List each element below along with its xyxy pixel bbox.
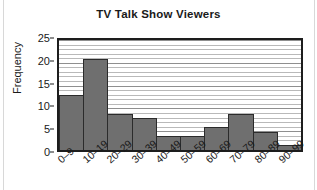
y-axis-tick-mark xyxy=(50,152,54,153)
x-axis-tick-group: 0–910–1920–2930–3940–4950–5960–6970–7980… xyxy=(57,152,303,190)
page-edge-line-right xyxy=(314,0,315,190)
chart-figure: TV Talk Show Viewers Frequency 051015202… xyxy=(0,0,317,190)
y-axis-tick-group: 0510152025 xyxy=(0,38,54,152)
y-axis-tick-mark xyxy=(50,129,54,130)
y-axis-tick-mark xyxy=(50,83,54,84)
y-axis-tick-label: 25 xyxy=(38,32,50,44)
y-axis-tick-mark xyxy=(50,60,54,61)
chart-title: TV Talk Show Viewers xyxy=(0,8,317,20)
bar-group xyxy=(59,40,301,150)
y-axis-tick-label: 15 xyxy=(38,78,50,90)
y-axis-tick-mark xyxy=(50,38,54,39)
bar xyxy=(59,95,84,150)
y-axis-tick-label: 10 xyxy=(38,100,50,112)
bar xyxy=(83,59,108,150)
plot-area xyxy=(57,38,303,152)
y-axis-tick-label: 20 xyxy=(38,55,50,67)
y-axis-tick-mark xyxy=(50,106,54,107)
